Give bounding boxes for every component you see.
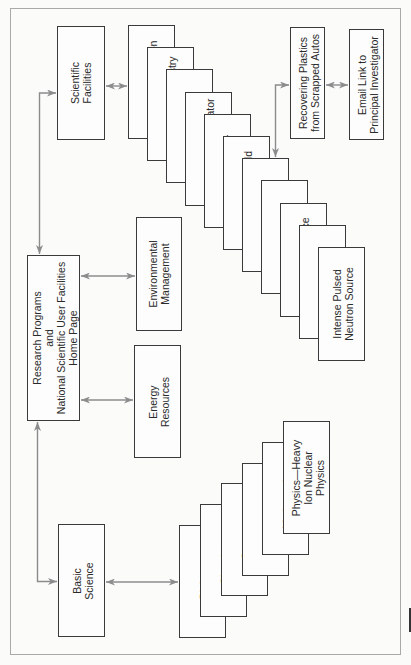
recovering-plastics-label: Recovering Plastics from Scrapped Autos [290, 27, 325, 139]
basic-science-box: Basic Science [58, 524, 105, 637]
connector-root-to-scientific-facilities [40, 93, 57, 254]
email-link-label: Email Link to Principal Investigator [349, 29, 384, 140]
environmental-management-label: Environmental Management [136, 217, 182, 331]
topic-box-physics-heavy-ion-nuclear: Physics—Heavy Ion Nuclear Physics [283, 421, 330, 534]
recovering-plastics-box: Recovering Plastics from Scrapped Autos [290, 27, 325, 139]
facility-label: Intense Pulsed Neutron Source [318, 247, 365, 361]
environmental-management-box: Environmental Management [136, 217, 182, 331]
connector-root-to-basic-science [38, 422, 58, 582]
email-link-box: Email Link to Principal Investigator [349, 29, 384, 140]
connector-auto-shredder-to-recovering [276, 85, 290, 157]
scientific-facilities-label: Scientific Facilities [57, 26, 105, 140]
root-home-page-label: Research Programs and National Scientifi… [27, 255, 80, 421]
facility-box-intense-pulsed-neutron-source: Intense Pulsed Neutron Source [318, 247, 365, 361]
energy-resources-label: Energy Resources [134, 345, 181, 458]
root-home-page-box: Research Programs and National Scientifi… [27, 255, 80, 421]
energy-resources-box: Energy Resources [134, 345, 181, 458]
basic-science-label: Basic Science [58, 524, 105, 637]
scientific-facilities-box: Scientific Facilities [57, 26, 105, 140]
topic-label: Physics—Heavy Ion Nuclear Physics [283, 421, 330, 534]
